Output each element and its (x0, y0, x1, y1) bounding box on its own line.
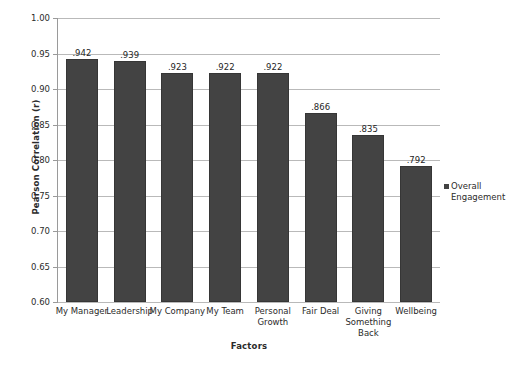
y-tick-mark (53, 89, 58, 90)
bar (66, 59, 98, 302)
y-tick-mark (53, 125, 58, 126)
plot-area: 1.000.950.900.850.800.750.700.650.60 (58, 18, 440, 302)
y-tick-label: 0.80 (31, 155, 50, 165)
bar-value-label: .835 (344, 124, 392, 134)
y-tick-label: 1.00 (31, 13, 50, 23)
y-tick-label: 0.60 (31, 297, 50, 307)
y-tick-mark (53, 160, 58, 161)
y-tick-mark (53, 302, 58, 303)
y-tick-label: 0.90 (31, 84, 50, 94)
bar (209, 73, 241, 302)
legend-label: Overall Engagement (451, 181, 517, 202)
y-tick-label: 0.75 (31, 191, 50, 201)
bar-value-label: .922 (249, 62, 297, 72)
bar (305, 113, 337, 302)
y-tick-mark (53, 18, 58, 19)
y-tick-label: 0.70 (31, 226, 50, 236)
bar-value-label: .939 (106, 50, 154, 60)
bar-value-label: .866 (297, 102, 345, 112)
y-tick-mark (53, 196, 58, 197)
bar (114, 61, 146, 302)
legend: Overall Engagement (444, 181, 517, 202)
bar-value-label: .792 (392, 155, 440, 165)
y-tick-mark (53, 267, 58, 268)
bar-chart: Pearson Correlation (r) 1.000.950.900.85… (0, 0, 519, 366)
bar-value-label: .922 (201, 62, 249, 72)
bar-value-label: .923 (153, 62, 201, 72)
x-axis-title: Factors (58, 341, 440, 351)
y-tick-mark (53, 231, 58, 232)
y-tick-label: 0.65 (31, 262, 50, 272)
y-tick-label: 0.95 (31, 49, 50, 59)
bar-value-label: .942 (58, 48, 106, 58)
legend-swatch-icon (444, 184, 449, 189)
gridline (58, 18, 440, 19)
bar (161, 73, 193, 302)
gridline (58, 302, 440, 303)
bar (352, 135, 384, 302)
x-category-label: Wellbeing (387, 306, 445, 317)
bar (257, 73, 289, 302)
bar (400, 166, 432, 302)
y-tick-label: 0.85 (31, 120, 50, 130)
